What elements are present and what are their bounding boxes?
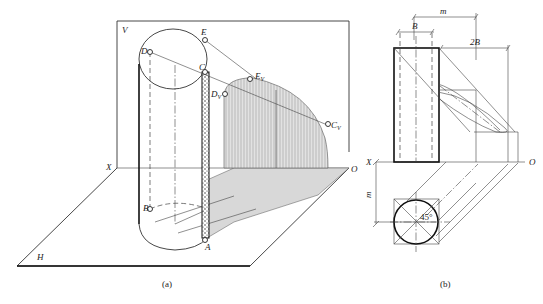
- cylinder-top-ellipse: [139, 29, 207, 89]
- label-d: D: [140, 46, 148, 56]
- label-cv: CV: [331, 120, 342, 131]
- svg-text:m: m: [363, 191, 373, 198]
- label-ev: EV: [254, 71, 266, 82]
- caption-b: (b): [440, 279, 451, 289]
- label-e: E: [200, 27, 207, 37]
- label-h: H: [36, 252, 44, 262]
- label-o-b: O: [529, 157, 536, 167]
- svg-text:m: m: [440, 6, 447, 16]
- label-x: X: [105, 162, 112, 172]
- label-dv: DV: [210, 89, 223, 100]
- label-v: V: [122, 25, 129, 35]
- shadow-construction-v: [394, 48, 518, 162]
- svg-text:2B: 2B: [470, 37, 481, 47]
- point-e: [203, 38, 208, 43]
- svg-text:B: B: [412, 21, 418, 31]
- point-ev: [248, 77, 253, 82]
- dimension-b: B: [396, 21, 434, 35]
- dimension-2b: 2B: [439, 37, 510, 162]
- point-d: [148, 50, 153, 55]
- caption-a: (a): [162, 279, 172, 289]
- diagram-canvas: V H X O D E C DV EV CV B A (a) X O B: [0, 0, 543, 304]
- label-b: B: [143, 203, 149, 213]
- point-dv: [223, 92, 228, 97]
- label-c: C: [199, 62, 206, 72]
- figure-a: V H X O D E C DV EV CV B A (a): [17, 21, 358, 289]
- dimension-m-top: m: [412, 6, 478, 60]
- label-a: A: [204, 242, 211, 252]
- figure-b: X O B m 2B: [363, 6, 536, 289]
- label-x-b: X: [365, 157, 372, 167]
- label-o: O: [351, 164, 358, 174]
- shadow-on-h-plane: [207, 168, 349, 238]
- angle-45-label: 45°: [420, 212, 433, 222]
- point-cv: [326, 122, 331, 127]
- light-ray-e: [205, 40, 255, 78]
- shadow-band-on-cylinder: [202, 72, 209, 238]
